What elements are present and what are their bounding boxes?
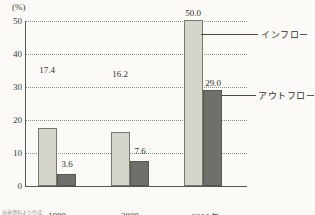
callout-line-inflow: [201, 34, 258, 35]
y-tick-40: 40: [2, 49, 22, 59]
x-tick-year-suffix: 年: [211, 213, 219, 215]
footnote-text: 出典資料より作成: [2, 209, 42, 215]
y-tick-30: 30: [2, 82, 22, 92]
gridline-40: [25, 54, 247, 55]
bar-value-inflow-1990: 17.4: [39, 65, 55, 75]
bar-outflow-2010: [203, 90, 222, 186]
bar-outflow-2000: [130, 161, 149, 186]
x-tick-2010-text: 2010: [192, 212, 210, 215]
y-tick-20: 20: [2, 115, 22, 125]
bar-value-outflow-1990: 3.6: [61, 159, 72, 169]
y-tick-50: 50: [2, 16, 22, 26]
x-tick-1990-text: 1990: [48, 211, 66, 215]
y-tick-10: 10: [2, 148, 22, 158]
y-axis-unit-label: (%): [12, 2, 26, 12]
bar-value-inflow-2000: 16.2: [112, 69, 128, 79]
y-axis-line: [25, 21, 26, 187]
bar-value-outflow-2010: 29.0: [205, 78, 221, 88]
callout-label-outflow: アウトフロー: [258, 89, 315, 102]
gridline-50: [25, 21, 247, 22]
bar-value-inflow-2010: 50.0: [185, 8, 201, 18]
bar-outflow-1990: [57, 174, 76, 186]
y-tick-0: 0: [2, 181, 22, 191]
x-tick-2010: 2010年: [192, 211, 219, 215]
chart-page: (%) 50 40 30 20 10 0 17.4 3.6 16.2 7.6 5…: [0, 0, 315, 215]
plot-area: 17.4 3.6 16.2 7.6 50.0 29.0 1990 2000 20…: [25, 21, 247, 187]
y-axis-tick-labels: 50 40 30 20 10 0: [0, 21, 22, 187]
callout-line-outflow: [222, 95, 256, 96]
bar-inflow-1990: [38, 128, 57, 186]
x-tick-2000-text: 2000: [121, 211, 139, 215]
x-tick-1990: 1990: [48, 211, 66, 215]
bar-inflow-2000: [111, 132, 130, 186]
bar-inflow-2010: [184, 20, 203, 186]
callout-label-inflow: インフロー: [261, 28, 309, 41]
x-tick-2000: 2000: [121, 211, 139, 215]
bar-value-outflow-2000: 7.6: [134, 146, 145, 156]
x-axis-line: [25, 186, 247, 187]
